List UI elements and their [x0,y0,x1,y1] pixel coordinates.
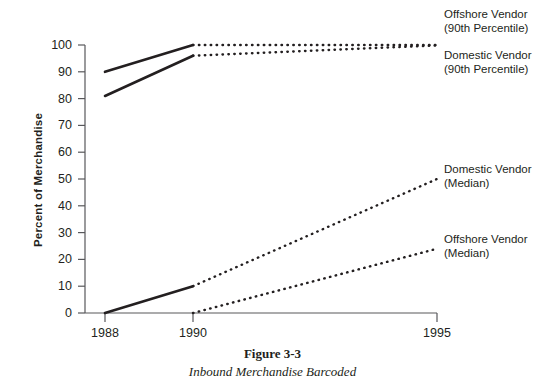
figure-caption-subtitle: Inbound Merchandise Barcoded [0,364,545,380]
y-tick-label-40: 40 [36,199,72,213]
series-label-offshore-median: Offshore Vendor (Median) [444,233,528,260]
series-offshore-median-dotted [193,249,437,313]
series-label-domestic-90th-line1: Domestic Vendor [444,49,532,63]
series-label-domestic-90th: Domestic Vendor (90th Percentile) [444,49,532,76]
y-tick-marks [78,45,85,313]
x-tick-label-1988: 1988 [75,326,135,340]
series-label-offshore-90th-line2: (90th Percentile) [444,22,528,36]
y-tick-label-20: 20 [36,252,72,266]
y-tick-label-50: 50 [36,172,72,186]
series-domestic-median-solid [105,286,193,313]
y-tick-label-0: 0 [36,306,72,320]
series-label-offshore-90th: Offshore Vendor (90th Percentile) [444,8,528,35]
series-label-domestic-90th-line2: (90th Percentile) [444,63,532,77]
x-tick-label-1995: 1995 [407,326,467,340]
y-tick-label-10: 10 [36,279,72,293]
y-tick-label-100: 100 [36,38,72,52]
series-label-offshore-90th-line1: Offshore Vendor [444,8,528,22]
series-offshore-90th-solid [105,45,193,72]
y-tick-label-80: 80 [36,92,72,106]
figure-3-3: Percent of Merchandise 100 90 80 70 60 5… [0,0,545,392]
y-tick-label-70: 70 [36,118,72,132]
series-label-domestic-median-line2: (Median) [444,177,532,191]
series-domestic-median-dotted [193,179,437,286]
y-tick-label-30: 30 [36,226,72,240]
x-tick-marks [105,313,437,322]
series-domestic-90th-dotted [193,46,437,56]
x-tick-label-1990: 1990 [163,326,223,340]
y-tick-label-90: 90 [36,65,72,79]
figure-caption-title: Figure 3-3 [0,346,545,362]
series-label-offshore-median-line1: Offshore Vendor [444,233,528,247]
series-label-offshore-median-line2: (Median) [444,247,528,261]
series-domestic-90th-solid [105,56,193,96]
y-tick-label-60: 60 [36,145,72,159]
series-label-domestic-median: Domestic Vendor (Median) [444,163,532,190]
series-label-domestic-median-line1: Domestic Vendor [444,163,532,177]
